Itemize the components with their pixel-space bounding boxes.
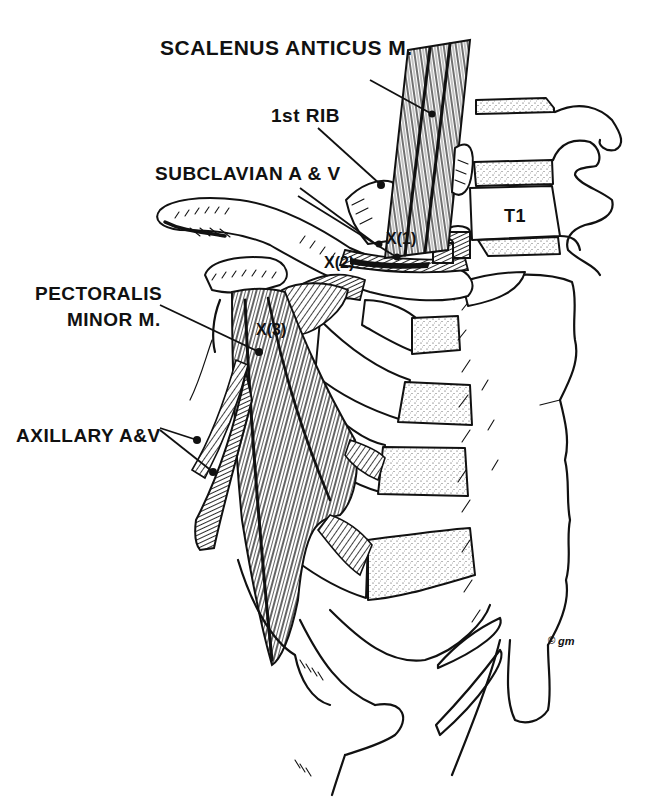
upper-disc <box>476 98 554 114</box>
vertebral-column <box>470 98 621 722</box>
label-first-rib: 1st RIB <box>271 105 340 126</box>
costal-cartilage-3 <box>398 382 472 425</box>
intervertebral-disc <box>474 160 553 186</box>
intervertebral-disc-lower <box>478 237 560 256</box>
compression-site-x2: X(2) <box>324 254 354 271</box>
scapula-edge <box>213 300 220 352</box>
rib-cage <box>295 290 501 795</box>
costal-cartilage-2 <box>412 316 460 354</box>
label-axillary: AXILLARY A&V <box>16 425 161 446</box>
label-scalenus-anticus: SCALENUS ANTICUS M. <box>160 36 413 59</box>
copyright-symbol: © <box>548 635 556 646</box>
artist-signature: © gm <box>548 635 575 647</box>
signature-initials: gm <box>557 635 575 647</box>
label-subclavian: SUBCLAVIAN A & V <box>155 163 341 184</box>
label-pectoralis-minor-2: MINOR M. <box>67 309 161 330</box>
costal-cartilage-5 <box>368 528 475 600</box>
costal-cartilage-4 <box>378 447 468 496</box>
compression-site-x1: X(1) <box>386 230 416 247</box>
label-pectoralis-minor-1: PECTORALIS <box>35 283 162 304</box>
label-t1-vertebra: T1 <box>504 206 526 226</box>
anatomical-figure: SCALENUS ANTICUS M. 1st RIB SUBCLAVIAN A… <box>0 0 645 800</box>
compression-site-x3: X(3) <box>256 321 286 338</box>
